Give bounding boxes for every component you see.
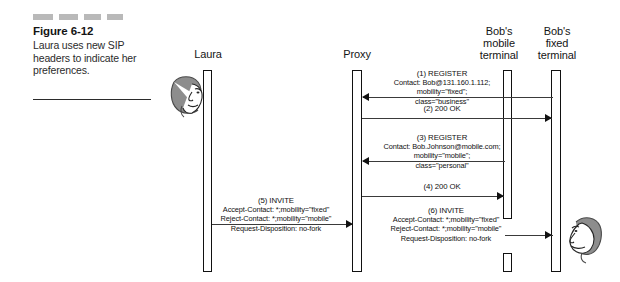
- figure-canvas: Figure 6-12 Laura uses new SIP headers t…: [0, 0, 620, 282]
- message-6-arrowhead: [545, 231, 552, 239]
- redaction-bar: [107, 14, 123, 20]
- figure-number: Figure 6-12: [33, 25, 151, 38]
- message-4-title: (4) 200 OK: [372, 182, 512, 191]
- message-1-text: (1) REGISTER Contact: Bob@131.160.1.112;…: [372, 69, 512, 106]
- message-3-title: (3) REGISTER: [366, 133, 518, 142]
- actor-label-fixed-line3: terminal: [529, 50, 585, 62]
- actor-label-laura: Laura: [168, 49, 248, 61]
- avatar-bob: [562, 213, 608, 269]
- message-1-line2: mobility="fixed";: [372, 87, 512, 96]
- message-2-title: (2) 200 OK: [372, 104, 512, 113]
- actor-label-mobile-line3: terminal: [471, 50, 527, 62]
- actor-label-mobile: Bob's mobile terminal: [471, 26, 527, 61]
- lifeline-proxy: [352, 70, 362, 272]
- caption-divider: [33, 99, 151, 100]
- message-5-line2: Reject-Contact: *;mobility="mobile": [196, 214, 356, 223]
- redaction-bar: [33, 14, 53, 20]
- message-3-line1: Contact: Bob.Johnson@mobile.com;: [366, 142, 518, 151]
- message-3-text: (3) REGISTER Contact: Bob.Johnson@mobile…: [366, 133, 518, 170]
- figure-description: Laura uses new SIP headers to indicate h…: [33, 39, 151, 77]
- message-3-arrowhead: [362, 157, 369, 165]
- message-2-text: (2) 200 OK: [372, 104, 512, 113]
- message-6-line1: Accept-Contact: *;mobility="fixed": [366, 215, 526, 224]
- figure-caption: Figure 6-12 Laura uses new SIP headers t…: [33, 14, 151, 77]
- message-1-arrowhead: [362, 93, 369, 101]
- message-5-title: (5) INVITE: [196, 196, 356, 205]
- message-1-line1: Contact: Bob@131.160.1.112;: [372, 78, 512, 87]
- lifeline-fixed-terminal: [551, 70, 561, 272]
- message-4-text: (4) 200 OK: [372, 182, 512, 191]
- message-1-title: (1) REGISTER: [372, 69, 512, 78]
- actor-label-fixed: Bob's fixed terminal: [529, 26, 585, 61]
- message-1-line: [363, 97, 553, 98]
- message-2-line: [362, 118, 552, 119]
- message-6-line3: Request-Disposition: no-fork: [366, 234, 526, 243]
- actor-label-mobile-line2: mobile: [471, 38, 527, 50]
- redaction-bar: [84, 14, 101, 20]
- redaction-bar: [59, 14, 78, 20]
- message-6-title: (6) INVITE: [366, 206, 526, 215]
- message-5-line1: Accept-Contact: *;mobility="fixed": [196, 205, 356, 214]
- actor-label-proxy: Proxy: [317, 49, 397, 61]
- message-3-line: [363, 161, 505, 162]
- message-5-arrowhead: [346, 220, 353, 228]
- message-6-line2: Reject-Contact: *;mobility="mobile": [366, 224, 526, 233]
- message-4-arrowhead: [497, 192, 504, 200]
- message-6-text: (6) INVITE Accept-Contact: *;mobility="f…: [366, 206, 526, 243]
- message-2-arrowhead: [545, 114, 552, 122]
- lifeline-mobile-terminal-lower: [503, 253, 512, 272]
- message-5-text: (5) INVITE Accept-Contact: *;mobility="f…: [196, 196, 356, 233]
- actor-label-fixed-line2: fixed: [529, 38, 585, 50]
- redaction-bars: [33, 14, 151, 20]
- message-5-line: [212, 224, 352, 225]
- avatar-laura: [168, 72, 208, 124]
- message-3-line2: mobility="mobile";: [366, 151, 518, 160]
- message-4-line: [362, 196, 504, 197]
